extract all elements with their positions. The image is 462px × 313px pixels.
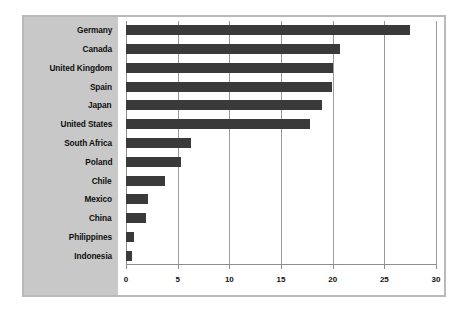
- gridline-20: [333, 21, 334, 265]
- category-label: South Africa: [64, 138, 112, 148]
- plot-area: 051015202530: [126, 21, 436, 265]
- gridline-25: [384, 21, 385, 265]
- x-tick-label: 30: [432, 275, 441, 284]
- x-tick-label: 5: [175, 275, 179, 284]
- x-tick-label: 0: [124, 275, 128, 284]
- bar: [126, 25, 410, 35]
- category-label-panel: Germany Canada United Kingdom Spain Japa…: [24, 17, 118, 295]
- gridline-10: [229, 21, 230, 265]
- x-tick-mark: [229, 265, 230, 269]
- plot-panel: 051015202530: [118, 17, 444, 295]
- bar: [126, 63, 333, 73]
- x-tick-mark: [126, 265, 127, 269]
- gridline-15: [281, 21, 282, 265]
- category-label: Mexico: [84, 194, 112, 204]
- bar: [126, 251, 132, 261]
- category-label: Chile: [92, 176, 112, 186]
- x-tick-label: 15: [277, 275, 286, 284]
- bar: [126, 157, 181, 167]
- category-label: United States: [60, 119, 112, 129]
- bar: [126, 176, 165, 186]
- gridline-30: [436, 21, 437, 265]
- bar: [126, 194, 148, 204]
- bar: [126, 119, 310, 129]
- x-tick-mark: [178, 265, 179, 269]
- x-tick-mark: [281, 265, 282, 269]
- category-label: Philippines: [69, 232, 112, 242]
- category-label: Poland: [85, 157, 112, 167]
- bar-chart-figure: Germany Canada United Kingdom Spain Japa…: [22, 15, 446, 297]
- category-label: Indonesia: [74, 251, 112, 261]
- bar: [126, 82, 332, 92]
- bar: [126, 213, 146, 223]
- bar: [126, 44, 340, 54]
- x-tick-label: 10: [225, 275, 234, 284]
- chart-inner-frame: Germany Canada United Kingdom Spain Japa…: [24, 17, 444, 295]
- category-label: Canada: [83, 44, 112, 54]
- bar: [126, 232, 134, 242]
- category-label: United Kingdom: [49, 63, 112, 73]
- x-tick-label: 25: [380, 275, 389, 284]
- bar: [126, 138, 191, 148]
- x-tick-mark: [384, 265, 385, 269]
- x-tick-label: 20: [328, 275, 337, 284]
- category-label: Japan: [89, 100, 112, 110]
- bar: [126, 100, 322, 110]
- category-label: Spain: [90, 82, 112, 92]
- x-tick-mark: [333, 265, 334, 269]
- category-label: Germany: [77, 25, 112, 35]
- category-label: China: [89, 213, 112, 223]
- x-tick-mark: [436, 265, 437, 269]
